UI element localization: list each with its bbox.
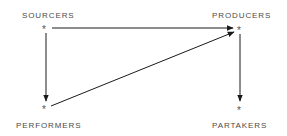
node-label-performers: PERFORMERS xyxy=(16,121,81,130)
diagram-edges xyxy=(0,0,287,136)
node-label-partakers: PARTAKERS xyxy=(212,121,267,130)
node-marker-partakers: * xyxy=(237,106,241,116)
edge-performers-producers xyxy=(51,32,234,106)
node-marker-producers: * xyxy=(237,26,241,36)
node-marker-sourcers: * xyxy=(42,25,46,35)
node-label-producers: PRODUCERS xyxy=(212,11,271,20)
node-marker-performers: * xyxy=(42,105,46,115)
node-label-sourcers: SOURCERS xyxy=(22,11,75,20)
